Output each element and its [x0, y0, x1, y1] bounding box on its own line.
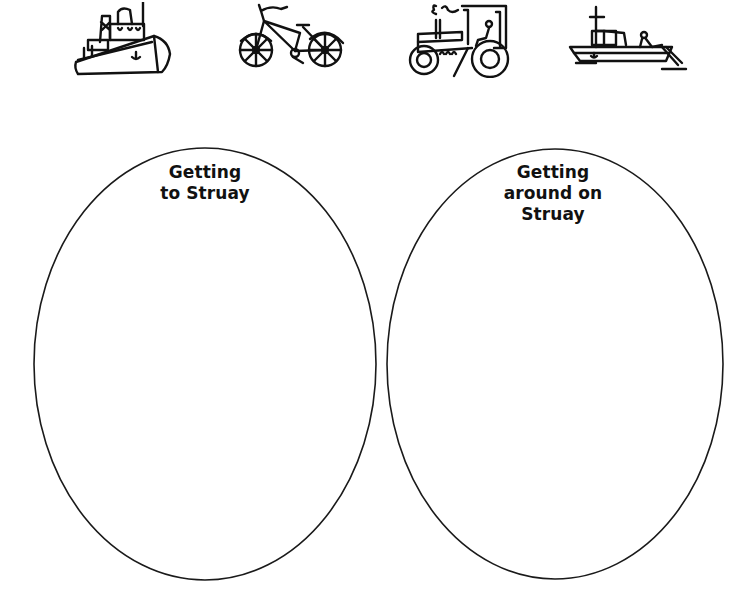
heading-line: Getting	[478, 162, 628, 183]
heading-line: Struay	[478, 204, 628, 225]
ovals-canvas	[0, 0, 753, 608]
getting-to-struay-heading: Getting to Struay	[130, 162, 280, 204]
getting-to-struay-oval	[34, 148, 376, 580]
heading-line: around on	[478, 183, 628, 204]
heading-line: Getting	[130, 162, 280, 183]
heading-line: to Struay	[130, 183, 280, 204]
getting-around-on-struay-heading: Getting around on Struay	[478, 162, 628, 225]
